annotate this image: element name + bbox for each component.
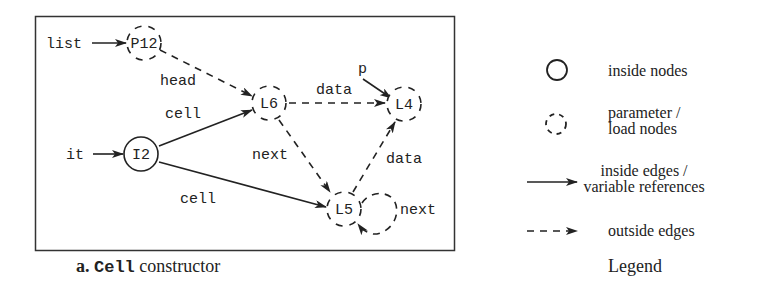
variable-label-p: p xyxy=(358,61,367,78)
legend-label-outside-edges: outside edges xyxy=(608,222,695,240)
edge-label-data-top: data xyxy=(316,82,352,99)
node-L5: L5 xyxy=(327,192,361,226)
variable-label-it: it xyxy=(66,147,84,164)
edge-label-next-loop: next xyxy=(400,202,436,219)
legend-item-outside-edges: outside edges xyxy=(527,222,695,240)
variable-reference-list: list xyxy=(46,36,126,53)
legend-label-inside-nodes: inside nodes xyxy=(608,62,688,79)
caption-prefix: a. xyxy=(76,256,90,276)
edge-cell-i2-l6: cell xyxy=(159,106,252,146)
edge-data-l5-l4: data xyxy=(353,122,422,192)
legend-label-variable-references: variable references xyxy=(583,178,704,195)
edge-head: head xyxy=(160,50,252,96)
legend-label-load-nodes: load nodes xyxy=(608,120,677,137)
legend: inside nodes parameter / load nodes insi… xyxy=(527,60,705,276)
node-label-L5: L5 xyxy=(335,202,353,219)
variable-reference-it: it xyxy=(66,147,123,164)
legend-item-inside-nodes: inside nodes xyxy=(547,60,688,80)
legend-item-parameter-load-nodes: parameter / load nodes xyxy=(546,104,681,137)
node-P12: P12 xyxy=(127,26,161,60)
node-label-L6: L6 xyxy=(260,96,278,113)
caption-code: Cell xyxy=(94,258,135,277)
edge-label-next: next xyxy=(252,147,288,164)
edge-cell-i2-l5: cell xyxy=(159,162,326,208)
legend-item-inside-edges: inside edges / variable references xyxy=(527,162,705,195)
node-I2: I2 xyxy=(124,137,158,171)
edge-data-l6-l4: data xyxy=(289,82,385,103)
node-label-I2: I2 xyxy=(132,147,150,164)
variable-reference-p: p xyxy=(358,61,391,98)
node-L6: L6 xyxy=(252,86,286,120)
diagram-frame xyxy=(36,17,455,251)
edge-label-data-right: data xyxy=(386,151,422,168)
node-label-L4: L4 xyxy=(395,97,413,114)
points-to-graph-figure: list it p head cell cell data next data … xyxy=(0,0,760,293)
node-label-P12: P12 xyxy=(130,36,157,53)
legend-title: Legend xyxy=(608,256,662,276)
dashed-circle-icon xyxy=(546,114,566,134)
edge-next-self-loop-l5: next xyxy=(358,193,436,234)
figure-caption: a. Cell constructor xyxy=(76,256,220,277)
solid-circle-icon xyxy=(547,60,567,80)
edge-label-cell-top: cell xyxy=(165,106,201,123)
caption-suffix: constructor xyxy=(139,256,220,276)
variable-label-list: list xyxy=(46,36,82,53)
edge-next-l6-l5: next xyxy=(252,120,330,192)
edge-label-head: head xyxy=(160,73,196,90)
node-L4: L4 xyxy=(387,87,421,121)
edge-label-cell-bottom: cell xyxy=(180,191,216,208)
